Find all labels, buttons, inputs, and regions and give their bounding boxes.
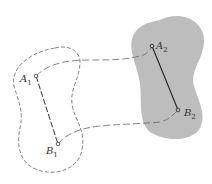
point-a1-marker — [34, 74, 38, 78]
point-a2-marker — [150, 44, 154, 48]
segment-a1-b1 — [36, 76, 58, 144]
point-b2-marker — [176, 108, 180, 112]
point-b1-marker — [56, 142, 60, 146]
label-a1: A1 — [19, 73, 32, 87]
deformation-diagram: A1 B1 A2 B2 — [0, 0, 212, 184]
label-b1: B1 — [45, 145, 58, 159]
